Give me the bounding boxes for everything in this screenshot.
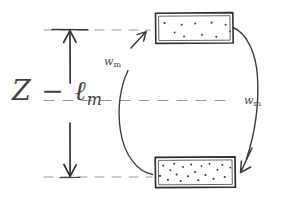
- upper-box-outer-border: [156, 13, 234, 44]
- upward-flux-symbol: w: [104, 55, 113, 68]
- diagram-canvas: Z − ℓm wm wm: [0, 0, 281, 197]
- height-subscript: m: [87, 90, 102, 109]
- height-symbol: Z − ℓ: [12, 75, 87, 106]
- height-dimension-label: Z − ℓm: [12, 77, 102, 108]
- upper-reservoir-box: [156, 13, 234, 44]
- upward-flux-subscript: m: [113, 60, 121, 69]
- downward-flux-subscript: m: [253, 99, 261, 108]
- downward-flux-arrowhead: [241, 148, 253, 173]
- lower-reservoir-box: [155, 157, 235, 188]
- upward-flux-label: wm: [104, 56, 121, 69]
- upward-flux-arrowhead: [131, 32, 146, 48]
- downward-flux-symbol: w: [244, 94, 253, 107]
- upward-flux-arrow: [119, 32, 152, 175]
- upward-flux-arc: [119, 71, 152, 175]
- downward-flux-label: wm: [244, 95, 261, 108]
